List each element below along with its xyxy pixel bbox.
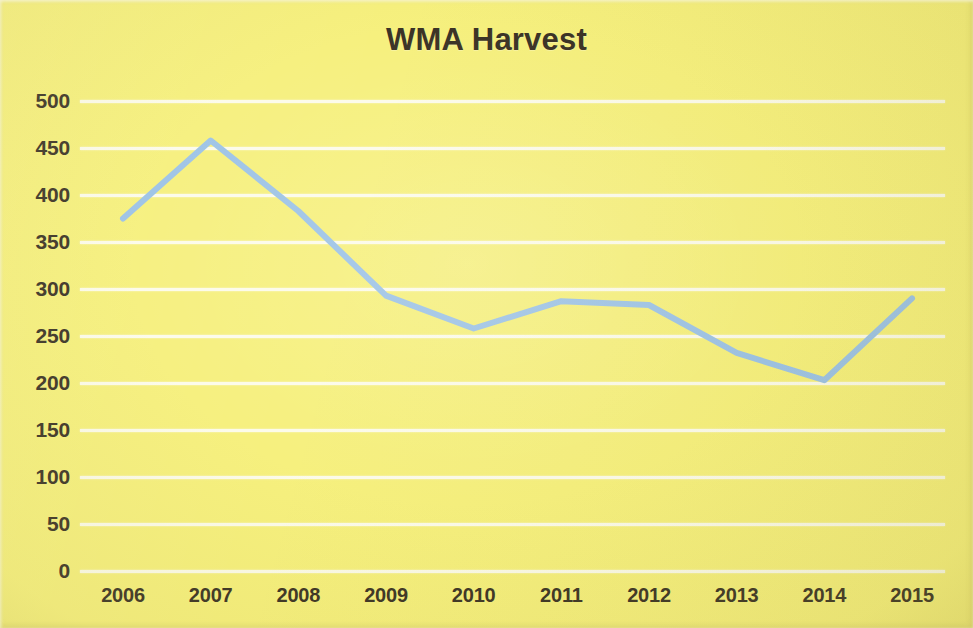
y-axis-tick-label: 200 (8, 371, 70, 395)
x-axis-tick-label: 2009 (364, 584, 408, 607)
x-axis-tick-label: 2014 (802, 584, 846, 607)
y-axis-tick-label: 100 (8, 465, 70, 489)
x-axis-tick-label: 2015 (890, 584, 934, 607)
y-axis-tick-label: 450 (8, 136, 70, 160)
x-axis-tick-label: 2012 (627, 584, 671, 607)
y-axis-tick-label: 250 (8, 324, 70, 348)
y-axis-tick-label: 50 (8, 512, 70, 536)
y-axis-tick-label: 500 (8, 89, 70, 113)
x-axis-tick-label: 2011 (540, 584, 583, 607)
x-axis-tick-label: 2013 (715, 584, 759, 607)
y-axis: 050100150200250300350400450500 (0, 101, 70, 571)
y-axis-tick-label: 0 (8, 559, 70, 583)
x-axis-tick-label: 2010 (452, 584, 496, 607)
plot-area (80, 101, 945, 571)
x-axis-tick-label: 2007 (189, 584, 233, 607)
x-axis-tick-label: 2006 (101, 584, 145, 607)
chart-title: WMA Harvest (0, 22, 973, 58)
series-line-wma-harvest (80, 101, 945, 571)
y-axis-tick-label: 350 (8, 230, 70, 254)
y-axis-tick-label: 150 (8, 418, 70, 442)
y-axis-tick-label: 400 (8, 183, 70, 207)
x-axis: 2006200720082009201020112012201320142015 (80, 584, 945, 618)
x-axis-tick-label: 2008 (276, 584, 320, 607)
chart-container: WMA Harvest 0501001502002503003504004505… (0, 0, 973, 628)
series-polyline (123, 141, 912, 381)
y-axis-tick-label: 300 (8, 277, 70, 301)
